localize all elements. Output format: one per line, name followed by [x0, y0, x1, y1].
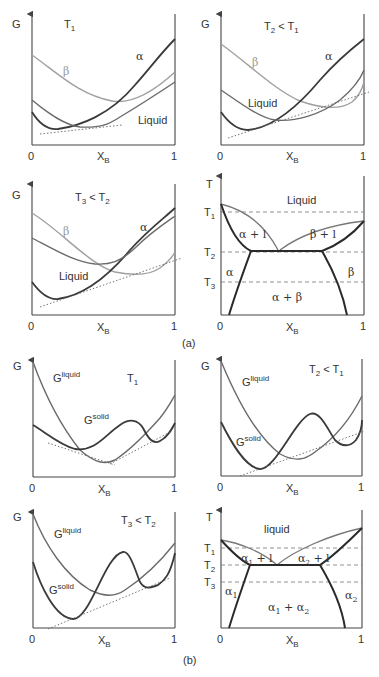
common-tangent-right: [110, 431, 172, 464]
liquid-label: Liquid: [59, 270, 88, 282]
solvus-left: [229, 251, 251, 315]
solvus-right: [322, 251, 347, 315]
alpha-beta-region-label: α + β: [272, 291, 302, 304]
solvus-right: [320, 565, 345, 628]
alpha-region-label: α: [226, 266, 234, 279]
alpha-label: α: [136, 50, 144, 63]
g-liquid-label: Gliquid: [242, 374, 269, 388]
beta-label: β: [252, 56, 258, 69]
beta-curve: [32, 213, 175, 274]
alpha1-alpha2-region-label: α1 + α2: [268, 601, 309, 616]
t1-tick-label: T1: [204, 542, 216, 557]
panel-b3-free-energy-T3: G 0 1 XB T3 < T2 Gliquid Gsolid: [13, 511, 177, 649]
g-solid-label: Gsolid: [49, 582, 74, 596]
panel-b1-free-energy-T1: G 0 1 XB T1 Gliquid Gsolid: [13, 360, 177, 498]
x-axis-label: XB: [97, 150, 110, 165]
t2-tick-label: T2: [204, 559, 216, 574]
alpha-liquid-region-label: α + l: [239, 228, 267, 241]
alpha-label: α: [140, 221, 148, 234]
temperature-label: T2 < T1: [309, 363, 344, 378]
alpha2-region-label: α2: [345, 589, 358, 604]
liquid-region-label: Liquid: [287, 194, 316, 206]
alpha1-region-label: α1: [225, 585, 238, 600]
x-max-label: 1: [358, 633, 364, 645]
x-max-label: 1: [171, 633, 177, 645]
beta-label: β: [63, 65, 69, 78]
panel-a1-free-energy-T1: G 0 1 XB T1 α β Liquid: [12, 14, 177, 165]
t1-tick-label: T1: [204, 206, 216, 221]
x-max-label: 1: [358, 481, 364, 493]
t3-tick-label: T3: [204, 576, 216, 591]
x-min-label: 0: [217, 481, 223, 493]
part-a-label: (a): [182, 337, 195, 349]
g-liquid-label: Gliquid: [54, 526, 81, 540]
g-axis-label: G: [201, 360, 210, 372]
x-axis-label: XB: [286, 150, 299, 165]
panel-a4-phase-diagram-eutectic: T 0 1 XB T1 T2 T3 Liquid α + l β + l α β…: [204, 176, 366, 336]
alpha-curve: [221, 39, 364, 130]
temperature-label: T3 < T2: [75, 191, 110, 206]
alpha2-liquid-region-label: α2 + l: [298, 552, 330, 567]
t-axis-label: T: [206, 178, 213, 190]
x-max-label: 1: [171, 482, 177, 494]
x-axis-label: XB: [97, 321, 110, 336]
common-tangent-left: [48, 443, 115, 465]
x-min-label: 0: [29, 482, 35, 494]
panel-b4-phase-diagram: T 0 1 XB T1 T2 T3 liquid α1 + l α2 + l α…: [204, 510, 364, 649]
liquid-curve: [32, 216, 175, 264]
common-tangent: [40, 258, 182, 307]
g-solid-label: Gsolid: [84, 412, 109, 426]
x-max-label: 1: [360, 150, 366, 162]
g-axis-label: G: [12, 18, 21, 30]
t-axis-label: T: [206, 511, 213, 523]
alpha-label: α: [325, 50, 333, 63]
panel-a2-free-energy-T2: G 0 1 XB T2 < T1 α β Liquid: [201, 14, 369, 165]
x-min-label: 0: [28, 150, 34, 162]
g-axis-label: G: [12, 189, 21, 201]
x-axis-label: XB: [286, 321, 299, 336]
x-min-label: 0: [217, 633, 223, 645]
x-axis-label: XB: [286, 634, 299, 649]
g-axis-label: G: [201, 18, 210, 30]
x-min-label: 0: [217, 320, 223, 332]
liquid-curve: [221, 70, 364, 120]
x-min-label: 0: [28, 320, 34, 332]
x-axis-label: XB: [98, 634, 111, 649]
liquid-label: Liquid: [138, 114, 167, 126]
g-liquid-label: Gliquid: [53, 370, 80, 384]
g-axis-label: G: [13, 360, 22, 372]
liquid-region-label: liquid: [264, 523, 290, 535]
beta-region-label: β: [348, 266, 354, 279]
g-axis-label: G: [13, 511, 22, 523]
x-axis-label: XB: [98, 483, 111, 498]
panel-a3-free-energy-T3: G 0 1 XB T3 < T2 α β Liquid: [12, 184, 182, 336]
x-min-label: 0: [29, 633, 35, 645]
g-solid-label: Gsolid: [236, 434, 261, 448]
x-max-label: 1: [171, 150, 177, 162]
t3-tick-label: T3: [204, 276, 216, 291]
x-min-label: 0: [217, 150, 223, 162]
temperature-label: T1: [127, 372, 139, 387]
x-axis-label: XB: [286, 482, 299, 497]
beta-liquid-region-label: β + l: [310, 228, 337, 241]
temperature-label: T2 < T1: [264, 20, 299, 35]
beta-label: β: [63, 225, 69, 238]
x-max-label: 1: [360, 320, 366, 332]
figure-canvas: G 0 1 XB T1 α β Liquid G 0 1 XB T2 < T1 …: [0, 0, 379, 677]
alpha1-liquid-region-label: α1 + l: [241, 552, 273, 567]
liquid-label: Liquid: [248, 97, 277, 109]
panel-b2-free-energy-T2: G 0 1 XB T2 < T1 Gliquid Gsolid: [201, 359, 365, 497]
temperature-label: T1: [64, 18, 76, 33]
t2-tick-label: T2: [204, 246, 216, 261]
part-b-label: (b): [183, 654, 196, 666]
x-max-label: 1: [171, 320, 177, 332]
temperature-label: T3 < T2: [121, 514, 156, 529]
